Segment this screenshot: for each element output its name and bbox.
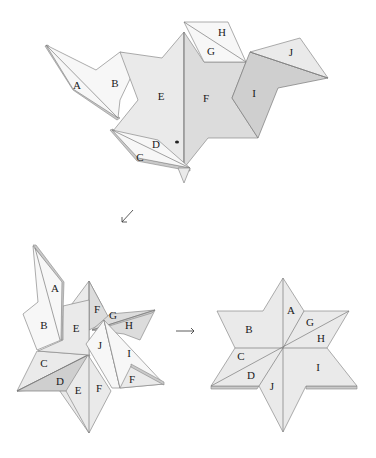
label-a: A	[73, 79, 81, 91]
bottom-tip	[178, 168, 190, 183]
label-g: G	[306, 316, 314, 328]
label-h: H	[125, 319, 133, 331]
label-f-bottom: F	[96, 382, 102, 394]
label-g: G	[109, 309, 117, 321]
label-d: D	[247, 369, 255, 381]
star-edge-left	[211, 386, 259, 389]
label-f-top: F	[94, 303, 100, 315]
label-f-right: F	[129, 373, 135, 385]
label-i: I	[316, 361, 320, 373]
arrow-diagonal-shaft	[122, 210, 133, 222]
label-b: B	[40, 319, 47, 331]
step-3-figure: A B C D G H I J	[211, 278, 357, 432]
panel-a-b	[23, 246, 62, 350]
label-a: A	[51, 282, 59, 294]
label-h: H	[218, 26, 226, 38]
label-b: B	[245, 323, 252, 335]
origami-diagram: A B C D E F G H I J	[0, 0, 376, 458]
label-e: E	[158, 90, 165, 102]
label-j: J	[289, 46, 294, 58]
label-c: C	[136, 151, 143, 163]
label-e-bottom: E	[75, 384, 82, 396]
label-h: H	[317, 332, 325, 344]
label-a: A	[287, 304, 295, 316]
label-g: G	[207, 45, 215, 57]
label-f: F	[203, 92, 209, 104]
reference-dot	[175, 141, 179, 144]
step-1-figure: A B C D E F G H I J	[45, 22, 328, 183]
label-c: C	[237, 350, 244, 362]
arrow-right	[176, 328, 194, 334]
label-d: D	[56, 375, 64, 387]
label-i: I	[252, 87, 256, 99]
arrow-diagonal	[122, 210, 133, 222]
label-b: B	[111, 77, 118, 89]
label-j: J	[98, 339, 103, 351]
label-i: I	[127, 347, 131, 359]
label-e-top: E	[73, 322, 80, 334]
label-d: D	[152, 138, 160, 150]
label-c: C	[40, 357, 47, 369]
star-edge-right	[306, 386, 357, 389]
step-2-figure: A B C D E E F F F G H I J	[17, 245, 164, 433]
star-body	[211, 278, 357, 432]
label-j: J	[270, 380, 275, 392]
